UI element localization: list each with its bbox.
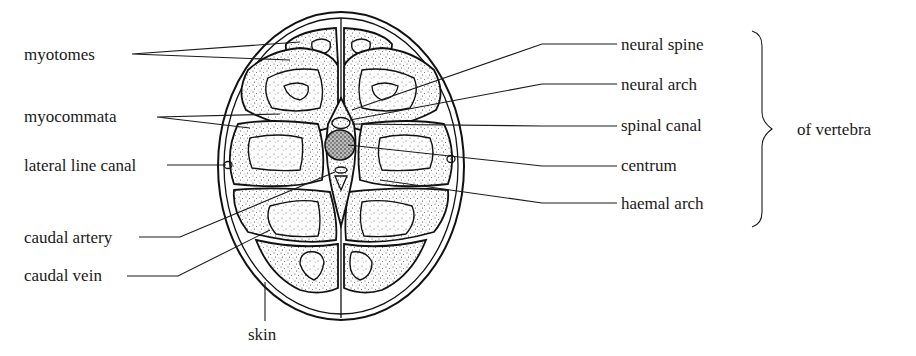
myotome-core	[268, 201, 320, 237]
label-of-vertebra: of vertebra	[797, 120, 872, 139]
label-skin: skin	[248, 325, 277, 344]
myotome-core	[266, 69, 323, 111]
label-haemal-arch: haemal arch	[621, 194, 704, 213]
label-spinal-canal: spinal canal	[621, 116, 702, 135]
myotome-core	[248, 135, 302, 171]
label-lateral-line-canal: lateral line canal	[24, 156, 137, 175]
myotome-core	[360, 201, 414, 237]
label-myocommata: myocommata	[24, 107, 117, 126]
label-caudal-vein: caudal vein	[24, 266, 102, 285]
myotome-bottom-left	[256, 240, 338, 293]
label-centrum: centrum	[621, 156, 677, 175]
label-caudal-artery: caudal artery	[24, 228, 113, 247]
label-neural-spine: neural spine	[621, 35, 704, 54]
fish-tail-cross-section-diagram: myotomes myocommata lateral line canal c…	[0, 0, 916, 356]
label-myotomes: myotomes	[24, 45, 95, 64]
label-neural-arch: neural arch	[621, 75, 697, 94]
